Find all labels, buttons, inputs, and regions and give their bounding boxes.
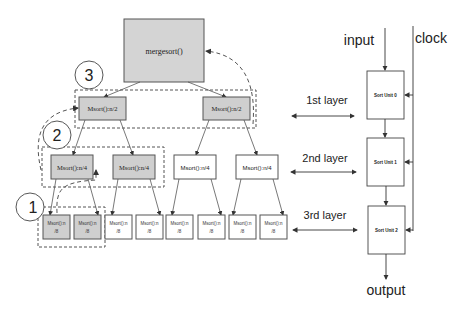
layer3-node-1: Msort():n /8	[74, 215, 101, 239]
layer3-node-3: Msort():n /8	[136, 215, 163, 239]
root-label: mergesort()	[145, 47, 183, 56]
svg-text:Msort():n: Msort():n	[234, 221, 252, 226]
mergesort-pipeline-diagram: mergesort() Msort():n/2 Msort():n/2 Msor…	[0, 0, 467, 311]
root-node-mergesort: mergesort()	[124, 19, 204, 82]
input-label: input	[344, 32, 374, 48]
sort-unit-2: Sort Unit 2	[368, 206, 405, 254]
svg-text:Sort Unit 2: Sort Unit 2	[375, 228, 398, 233]
output-label: output	[367, 282, 406, 298]
svg-text:Sort Unit 0: Sort Unit 0	[374, 93, 397, 98]
layer-label-2nd: 2nd layer	[291, 152, 356, 172]
layer-label-1st: 1st layer	[292, 94, 354, 116]
svg-text:2: 2	[53, 127, 62, 144]
svg-text:Msort():n: Msort():n	[265, 221, 283, 226]
svg-text:Msort():n/2: Msort():n/2	[88, 105, 118, 113]
svg-text:/8: /8	[117, 229, 121, 234]
step-circle-1: 1	[16, 193, 44, 221]
svg-text:/8: /8	[272, 229, 276, 234]
sort-unit-0: Sort Unit 0	[367, 71, 404, 119]
svg-text:3rd layer: 3rd layer	[304, 209, 347, 221]
layer3-node-6: Msort():n /8	[229, 215, 256, 239]
step-circle-2: 2	[43, 121, 71, 149]
layer3-node-4: Msort():n /8	[166, 215, 193, 239]
svg-text:/8: /8	[210, 229, 214, 234]
svg-text:/8: /8	[148, 229, 152, 234]
layer1-node-0: Msort():n/2	[79, 97, 126, 120]
svg-text:Msort():n: Msort():n	[203, 221, 221, 226]
layer1-node-1: Msort():n/2	[203, 97, 250, 120]
svg-text:Msort():n: Msort():n	[79, 221, 97, 226]
layer3-node-7: Msort():n /8	[260, 215, 287, 239]
svg-text:Msort():n/2: Msort():n/2	[212, 105, 242, 113]
svg-text:Msort():n/4: Msort():n/4	[119, 164, 150, 172]
svg-text:Msort():n: Msort():n	[171, 221, 189, 226]
layer-label-3rd: 3rd layer	[293, 209, 357, 230]
svg-text:/8: /8	[241, 229, 245, 234]
clock-label: clock	[415, 30, 448, 46]
svg-text:Msort():n/4: Msort():n/4	[180, 165, 210, 171]
layer3-node-5: Msort():n /8	[198, 215, 225, 239]
layer2-node-3: Msort():n/4	[236, 155, 278, 179]
svg-text:2nd layer: 2nd layer	[302, 152, 348, 164]
step-circle-3: 3	[75, 61, 103, 89]
svg-text:Sort Unit 1: Sort Unit 1	[374, 160, 397, 165]
svg-text:Msort():n/4: Msort():n/4	[242, 165, 272, 171]
svg-text:3: 3	[85, 67, 94, 84]
svg-text:Msort():n/4: Msort():n/4	[57, 164, 88, 172]
svg-text:/8: /8	[178, 229, 182, 234]
svg-text:/8: /8	[86, 229, 90, 234]
svg-text:/8: /8	[55, 229, 59, 234]
sort-unit-1: Sort Unit 1	[367, 138, 404, 186]
svg-text:1st layer: 1st layer	[306, 94, 348, 106]
svg-text:Msort():n: Msort():n	[48, 221, 66, 226]
layer2-node-2: Msort():n/4	[174, 155, 216, 179]
svg-text:Msort():n: Msort():n	[141, 221, 159, 226]
layer2-node-0: Msort():n/4	[51, 155, 93, 179]
layer2-node-1: Msort():n/4	[113, 155, 155, 179]
layer3-node-2: Msort():n /8	[105, 215, 132, 239]
svg-text:Msort():n: Msort():n	[110, 221, 128, 226]
svg-text:1: 1	[29, 199, 38, 216]
layer3-node-0: Msort():n /8	[43, 215, 70, 239]
